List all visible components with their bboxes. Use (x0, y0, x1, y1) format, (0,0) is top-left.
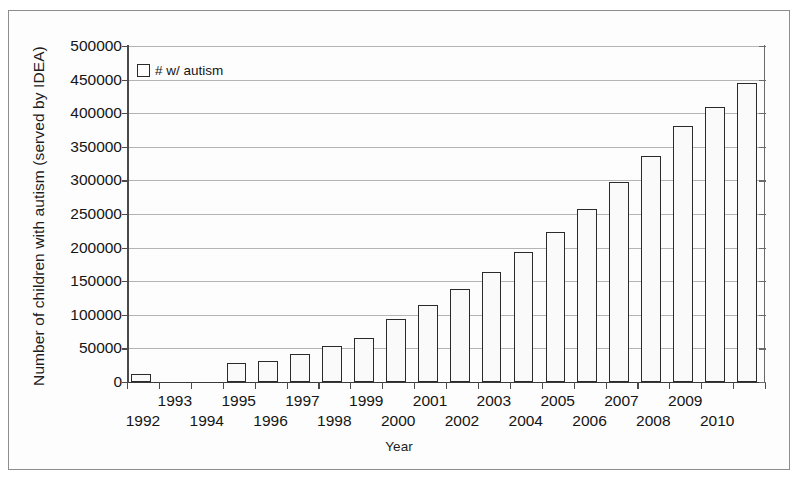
secondary-axis-tick-mark (759, 147, 766, 148)
secondary-axis-tick-mark (759, 80, 766, 81)
x-tick-label: 1997 (285, 392, 319, 410)
x-tick-mark (478, 382, 479, 389)
bar-slot (574, 46, 606, 382)
y-tick-mark (122, 214, 128, 215)
bar-slot (446, 46, 478, 382)
bar-slot (255, 46, 287, 382)
bar[interactable] (641, 156, 661, 382)
x-tick-mark (510, 382, 511, 389)
secondary-axis-tick-mark (759, 281, 766, 282)
y-tick-mark (122, 147, 128, 148)
bar-slot (223, 46, 255, 382)
bar-slot (287, 46, 319, 382)
x-tick-label: 2000 (381, 412, 415, 430)
bar-slot (701, 46, 733, 382)
bar[interactable] (673, 126, 693, 382)
bar-slot (382, 46, 414, 382)
bar-slot (637, 46, 669, 382)
y-tick-label: 350000 (70, 138, 122, 156)
bar[interactable] (482, 272, 502, 382)
y-tick-label: 450000 (70, 71, 122, 89)
x-tick-mark (382, 382, 383, 389)
bar[interactable] (290, 354, 310, 382)
x-tick-label: 1999 (349, 392, 383, 410)
x-tick-label: 1998 (317, 412, 351, 430)
x-tick-mark (318, 382, 319, 389)
x-tick-label: 2005 (540, 392, 574, 410)
x-tick-label: 2008 (636, 412, 670, 430)
bar-slot (318, 46, 350, 382)
y-tick-mark (122, 315, 128, 316)
bar-slot (606, 46, 638, 382)
y-tick-mark (122, 113, 128, 114)
y-tick-label: 200000 (70, 239, 122, 257)
x-tick-mark (542, 382, 543, 389)
bar[interactable] (546, 232, 566, 382)
y-tick-label: 500000 (70, 37, 122, 55)
y-tick-label: 250000 (70, 205, 122, 223)
x-tick-label: 1994 (190, 412, 224, 430)
bar[interactable] (418, 305, 438, 382)
bar[interactable] (705, 107, 725, 382)
bar[interactable] (322, 346, 342, 382)
secondary-axis-tick-mark (759, 214, 766, 215)
bar[interactable] (737, 83, 757, 382)
bar-slot (350, 46, 382, 382)
bar[interactable] (450, 289, 470, 382)
legend-swatch-icon (137, 64, 150, 77)
y-tick-label: 0 (113, 373, 122, 391)
bar[interactable] (514, 252, 534, 382)
secondary-axis-tick-mark (759, 113, 766, 114)
x-tick-label: 1995 (221, 392, 255, 410)
y-tick-mark (122, 281, 128, 282)
secondary-axis-tick-mark (759, 248, 766, 249)
x-tick-label: 2006 (572, 412, 606, 430)
x-tick-label: 2001 (413, 392, 447, 410)
y-tick-label: 150000 (70, 272, 122, 290)
bar[interactable] (609, 182, 629, 382)
x-tick-mark (255, 382, 256, 389)
legend: # w/ autism (137, 63, 223, 78)
bar[interactable] (577, 209, 597, 382)
bar[interactable] (227, 363, 247, 382)
legend-label: # w/ autism (155, 63, 223, 78)
x-tick-mark (287, 382, 288, 389)
bar[interactable] (131, 374, 151, 382)
x-tick-label: 1992 (126, 412, 160, 430)
secondary-axis-tick-mark (759, 382, 766, 383)
y-tick-label: 300000 (70, 171, 122, 189)
x-tick-label: 2007 (604, 392, 638, 410)
bar-slot (478, 46, 510, 382)
y-axis-tick-labels: 5000004500004000003500003000002500002000… (9, 46, 122, 382)
bar-series (127, 46, 765, 382)
y-tick-label: 400000 (70, 104, 122, 122)
x-tick-label: 2009 (668, 392, 702, 410)
x-tick-mark (446, 382, 447, 389)
y-tick-label: 100000 (70, 306, 122, 324)
bar-slot (414, 46, 446, 382)
x-tick-mark (701, 382, 702, 389)
x-tick-label: 1993 (158, 392, 192, 410)
footer-caption (0, 487, 806, 501)
y-tick-mark (122, 248, 128, 249)
x-tick-label: 2004 (509, 412, 543, 430)
y-tick-mark (122, 382, 128, 383)
x-axis-title-text: Year (385, 439, 412, 454)
bar-slot (542, 46, 574, 382)
x-tick-label: 1996 (253, 412, 287, 430)
y-tick-mark (122, 80, 128, 81)
bar-slot (159, 46, 191, 382)
chart-frame: Number of children with autism (served b… (8, 10, 790, 470)
x-tick-mark (350, 382, 351, 389)
bar[interactable] (354, 338, 374, 382)
x-tick-label: 2010 (700, 412, 734, 430)
x-tick-mark (414, 382, 415, 389)
bar-slot (669, 46, 701, 382)
bar[interactable] (258, 361, 278, 382)
bar[interactable] (386, 319, 406, 382)
x-tick-mark (637, 382, 638, 389)
bar-slot (127, 46, 159, 382)
secondary-axis-tick-mark (759, 315, 766, 316)
bar-slot (510, 46, 542, 382)
x-tick-mark (223, 382, 224, 389)
